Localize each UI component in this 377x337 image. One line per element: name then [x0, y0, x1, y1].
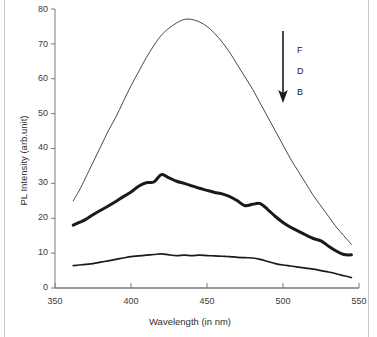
series-label-b: B: [297, 87, 303, 97]
x-tick-label-550: 550: [344, 296, 374, 306]
y-tick-label-40: 40: [26, 142, 48, 152]
down-arrow-icon: [278, 31, 288, 103]
y-axis-ticks: [51, 9, 55, 288]
series-label-d: D: [297, 66, 304, 76]
y-tick-label-50: 50: [26, 108, 48, 118]
x-axis-title: Wavelength (in nm): [110, 316, 270, 327]
y-axis-title: PL Intensity (arb.unit): [18, 91, 29, 231]
y-tick-label-80: 80: [26, 4, 48, 14]
y-tick-label-70: 70: [26, 39, 48, 49]
x-tick-label-400: 400: [116, 296, 146, 306]
x-tick-label-350: 350: [40, 296, 70, 306]
pl-intensity-chart: 80 70 60 50 40 30 20 10 0 350 400 450 50…: [0, 0, 377, 337]
x-tick-label-500: 500: [268, 296, 298, 306]
x-tick-label-450: 450: [192, 296, 222, 306]
x-axis-ticks: [55, 283, 359, 288]
plot-canvas: [0, 0, 377, 337]
y-tick-label-20: 20: [26, 212, 48, 222]
y-tick-label-30: 30: [26, 177, 48, 187]
y-tick-label-0: 0: [26, 282, 48, 292]
series-curve-f: [73, 19, 351, 244]
series-label-f: F: [297, 45, 303, 55]
series-curve-d: [73, 175, 351, 255]
y-tick-label-60: 60: [26, 73, 48, 83]
data-series-group: [73, 19, 351, 277]
series-curve-b: [73, 254, 351, 278]
y-tick-label-10: 10: [26, 247, 48, 257]
